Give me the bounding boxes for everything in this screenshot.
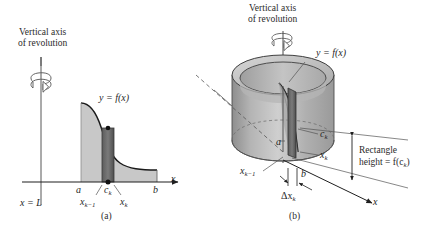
rectangle-height-label: Rectangle height = f(ck) <box>359 145 410 170</box>
panel-a-axis-note: Vertical axis of revolution <box>18 27 67 49</box>
panel-b-caption: (b) <box>289 211 300 221</box>
panel-b-tick-xk: xk <box>320 149 327 161</box>
panel-a-tick-b: b <box>153 184 158 195</box>
delta-arrow-right <box>299 183 312 190</box>
panel-b-axis-note-line1: Vertical axis <box>248 3 297 14</box>
panel-a-axis-note-line2: of revolution <box>18 38 67 49</box>
panel-b-delta-label: Δxk <box>281 190 295 202</box>
shell-method-figure: Vertical axis of revolution y = f(x) x =… <box>0 0 428 234</box>
panel-a-tick-ck: ck <box>104 184 111 196</box>
panel-b-rotation-arrow-icon <box>272 33 292 50</box>
panel-b-tick-b: b <box>301 168 306 179</box>
panel-a-caption: (a) <box>101 211 112 221</box>
panel-a-axis-line-label: x = L <box>20 197 42 208</box>
panel-a-tick-a: a <box>76 184 81 195</box>
panel-a-curve-label: y = f(x) <box>99 92 129 103</box>
panel-a-leader-xk-minus-1 <box>96 185 102 195</box>
panel-a-x-axis-label: x <box>171 173 175 184</box>
panel-b-x-axis-label: x <box>373 196 377 207</box>
panel-a-ck-top-point <box>106 126 111 131</box>
panel-a-representative-rectangle <box>102 128 114 182</box>
rectangle-height-line1: Rectangle <box>359 145 410 157</box>
panel-b-tick-a: a <box>276 136 281 147</box>
panel-b-tick-ck: ck <box>320 128 327 140</box>
panel-b-axis-note-line2: of revolution <box>248 14 297 25</box>
cylindrical-shell-slab <box>288 88 296 158</box>
panel-b-tick-xk-minus-1: xk−1 <box>240 165 255 177</box>
panel-a-tick-xk: xk <box>120 196 127 208</box>
rectangle-height-line2: height = f(ck) <box>359 157 410 170</box>
panel-b-axis-note: Vertical axis of revolution <box>248 3 297 25</box>
panel-b-perspective-axis-segment <box>214 90 232 106</box>
panel-a-leader-xk <box>114 185 121 195</box>
panel-a-tick-xk-minus-1: xk−1 <box>80 196 95 208</box>
panel-a-axis-note-line1: Vertical axis <box>18 27 67 38</box>
panel-b-curve-label: y = f(x) <box>316 47 346 58</box>
panel-a-graphics <box>22 57 178 205</box>
delta-arrow-left <box>280 176 288 183</box>
